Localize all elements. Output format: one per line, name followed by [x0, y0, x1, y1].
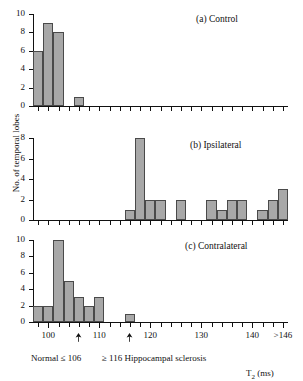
y-axis-tick	[29, 159, 33, 160]
sclerosis-threshold-label: ≥ 116 Hippocampal sclerosis	[102, 353, 206, 363]
x-axis-tick	[283, 107, 284, 111]
histogram-bar	[268, 200, 278, 221]
x-axis-tick	[120, 323, 121, 327]
y-axis-tick-label: 8	[9, 133, 25, 142]
histogram-bar	[43, 306, 53, 322]
x-axis-tick-label: 100	[28, 330, 68, 340]
histogram-bar	[125, 210, 135, 220]
histogram-bar	[33, 51, 43, 106]
x-axis-tick	[242, 221, 243, 225]
x-axis-tick	[110, 323, 111, 327]
x-axis-major-tick	[150, 323, 151, 328]
x-axis-tick	[89, 107, 90, 111]
x-axis-tick	[222, 323, 223, 327]
histogram-bar	[176, 200, 186, 221]
x-axis-tick	[110, 107, 111, 111]
histogram-bar	[53, 32, 63, 106]
x-axis-tick	[232, 221, 233, 225]
y-axis-line	[33, 138, 34, 221]
y-axis-tick	[29, 273, 33, 274]
threshold-arrow-116	[126, 328, 133, 337]
y-axis-tick	[29, 200, 33, 201]
x-axis-major-tick	[48, 323, 49, 328]
y-axis-tick	[29, 220, 33, 221]
histogram-bar	[145, 200, 155, 221]
y-axis-tick-label: 6	[9, 46, 25, 55]
x-axis-tick	[191, 107, 192, 111]
x-axis-tick	[242, 107, 243, 111]
x-axis-tick	[59, 221, 60, 225]
y-axis-tick-label: 4	[9, 284, 25, 293]
x-axis-tick	[48, 107, 49, 111]
x-axis-tick	[263, 323, 264, 327]
x-axis-tick	[38, 107, 39, 111]
x-axis-tick	[79, 107, 80, 111]
x-axis-tick-label: >146	[263, 330, 303, 340]
histogram-bar	[33, 306, 43, 322]
x-axis-tick	[212, 221, 213, 225]
x-axis-tick	[110, 221, 111, 225]
x-axis-tick	[171, 323, 172, 327]
y-axis-tick-label: 4	[9, 64, 25, 73]
x-axis-tick	[140, 221, 141, 225]
x-axis-tick	[161, 221, 162, 225]
x-axis-tick	[273, 107, 274, 111]
x-axis-tick-label: 130	[181, 330, 221, 340]
x-axis-tick	[89, 221, 90, 225]
x-axis-tick	[150, 107, 151, 111]
x-axis-tick	[59, 323, 60, 327]
x-axis-tick	[273, 221, 274, 225]
x-axis-tick	[171, 107, 172, 111]
x-axis-tick	[222, 107, 223, 111]
x-axis-tick	[69, 107, 70, 111]
x-axis-tick	[99, 221, 100, 225]
histogram-bar	[125, 314, 135, 322]
x-axis-tick	[212, 107, 213, 111]
y-axis-tick	[29, 256, 33, 257]
x-axis-tick	[89, 323, 90, 327]
y-axis-tick	[29, 138, 33, 139]
x-axis-tick	[242, 323, 243, 327]
x-axis-tick	[48, 221, 49, 225]
x-axis-tick	[181, 107, 182, 111]
y-axis-tick	[29, 322, 33, 323]
x-axis-tick	[38, 323, 39, 327]
x-axis-tick	[181, 221, 182, 225]
x-axis-tick	[252, 221, 253, 225]
x-axis-tick	[79, 221, 80, 225]
x-axis-tick	[181, 323, 182, 327]
x-axis-tick	[252, 107, 253, 111]
y-axis-tick-label: 6	[9, 268, 25, 277]
x-axis-tick	[130, 107, 131, 111]
y-axis-tick-label: 0	[9, 101, 25, 110]
x-axis-tick-label: 120	[130, 330, 170, 340]
histogram-bar	[74, 297, 84, 322]
y-axis-tick-label: 2	[9, 83, 25, 92]
y-axis-tick	[29, 289, 33, 290]
x-axis-tick	[191, 323, 192, 327]
y-axis-tick-label: 0	[9, 317, 25, 326]
y-axis-tick	[29, 106, 33, 107]
y-axis-tick	[29, 14, 33, 15]
x-axis-tick	[79, 323, 80, 327]
x-axis-tick	[232, 323, 233, 327]
x-axis-tick	[69, 221, 70, 225]
x-axis-tick	[201, 107, 202, 111]
y-axis-tick-label: 6	[9, 154, 25, 163]
x-axis-label-unit: (ms)	[255, 368, 274, 378]
x-axis-major-tick	[283, 323, 284, 328]
y-axis-tick-label: 2	[9, 195, 25, 204]
y-axis-tick-label: 10	[9, 9, 25, 18]
histogram-bar	[217, 210, 227, 220]
x-axis-tick	[171, 221, 172, 225]
x-axis-tick	[130, 221, 131, 225]
histogram-bar	[94, 297, 104, 322]
normal-threshold-label: Normal ≤ 106	[31, 353, 81, 363]
x-axis-tick	[99, 107, 100, 111]
panel-title-control: (a) Control	[196, 14, 238, 24]
panel-title-contralateral: (c) Contralateral	[185, 241, 248, 251]
histogram-bar	[84, 306, 94, 322]
x-axis-tick	[232, 107, 233, 111]
histogram-bar	[278, 189, 288, 220]
histogram-bar	[206, 200, 216, 221]
